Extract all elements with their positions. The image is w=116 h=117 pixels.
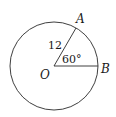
center-o-label: O	[40, 68, 50, 82]
angle-label: 60°	[62, 53, 82, 66]
point-b-label: B	[100, 62, 110, 76]
point-a-label: A	[75, 12, 85, 26]
radius-length-label: 12	[48, 39, 62, 52]
circle-diagram: A B O 12 60°	[0, 0, 116, 117]
